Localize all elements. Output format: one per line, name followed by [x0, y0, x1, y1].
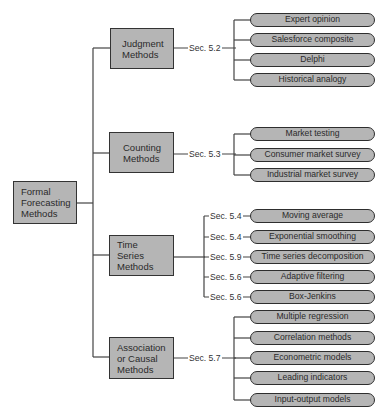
method-leading-indicators: Leading indicators	[250, 371, 375, 385]
category-judgment: JudgmentMethods	[110, 28, 174, 69]
category-label: Time Series	[117, 239, 144, 261]
method-market-testing: Market testing	[250, 127, 375, 141]
method-historical-analogy: Historical analogy	[250, 73, 375, 87]
method-industrial-market-survey: Industrial market survey	[250, 168, 375, 182]
root-node-formal-forecasting: FormalForecastingMethods	[13, 181, 77, 224]
section-label: Sec. 5.2	[188, 43, 222, 53]
category-label: Counting	[123, 142, 161, 153]
method-exponential-smoothing: Exponential smoothing	[250, 230, 375, 244]
method-adaptive-filtering: Adaptive filtering	[250, 270, 375, 284]
section-label: Sec. 5.6	[209, 292, 243, 302]
category-label: Methods	[122, 49, 158, 60]
section-label: Sec. 5.3	[188, 149, 222, 159]
method-salesforce-composite: Salesforce composite	[250, 33, 375, 47]
category-label: Methods	[117, 364, 153, 375]
method-box-jenkins: Box-Jenkins	[250, 290, 375, 304]
method-consumer-market-survey: Consumer market survey	[250, 148, 375, 162]
category-association-causal: Associationor CausalMethods	[109, 337, 174, 379]
section-label: Sec. 5.9	[209, 252, 243, 262]
method-delphi: Delphi	[250, 53, 375, 67]
section-label: Sec. 5.6	[209, 272, 243, 282]
root-line: Forecasting	[21, 197, 71, 208]
category-label: Methods	[117, 261, 153, 272]
category-label: or Causal	[117, 353, 158, 364]
method-multiple-regression: Multiple regression	[250, 310, 375, 324]
category-time-series: Time SeriesMethods	[109, 235, 174, 276]
method-econometric-models: Econometric models	[250, 351, 375, 365]
section-label: Sec. 5.7	[188, 353, 222, 363]
method-time-series-decomposition: Time series decomposition	[250, 250, 375, 264]
method-correlation-methods: Correlation methods	[250, 331, 375, 345]
category-counting: CountingMethods	[109, 132, 174, 173]
method-expert-opinion: Expert opinion	[250, 13, 375, 27]
section-label: Sec. 5.4	[209, 232, 243, 242]
category-label: Methods	[123, 153, 159, 164]
category-label: Judgment	[122, 38, 164, 49]
section-label: Sec. 5.4	[209, 211, 243, 221]
root-line: Methods	[21, 208, 57, 219]
method-input-output-models: Input-output models	[250, 393, 375, 407]
method-moving-average: Moving average	[250, 209, 375, 223]
category-label: Association	[117, 342, 166, 353]
root-line: Formal	[21, 186, 51, 197]
